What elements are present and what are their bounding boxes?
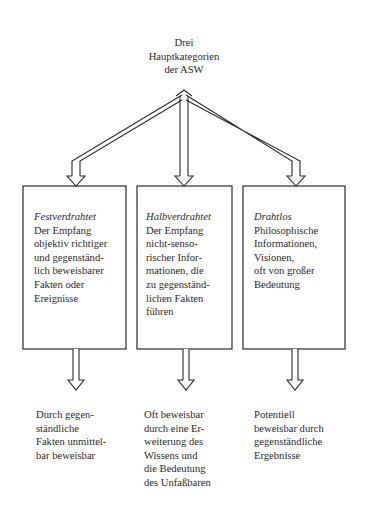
- box-line: lich beweisbarer: [34, 264, 132, 278]
- outcome-line: ständliche: [36, 422, 106, 436]
- outcome-line: weiterung des: [144, 435, 211, 449]
- outcome-line: gegenständliche: [254, 435, 324, 449]
- outcome-line: Fakten unmittel-: [36, 435, 106, 449]
- box-line: Informationen,: [254, 237, 352, 251]
- box-line: lichen Fakten: [146, 292, 244, 306]
- arrow-to-festverdrahtet: [72, 95, 182, 176]
- category-label: Festverdrahtet: [34, 210, 132, 224]
- arrow-to-drahtlos: [186, 95, 300, 176]
- box-line: Ereignisse: [34, 292, 132, 306]
- arrow-out-festverdrahtet: [68, 349, 84, 390]
- box-drahtlos-text: Drahtlos Philosophische Informationen, V…: [254, 210, 352, 292]
- title-line: der ASW: [120, 63, 248, 77]
- box-line: führen: [146, 305, 244, 319]
- box-festverdrahtet-text: Festverdrahtet Der Empfang objektiv rich…: [34, 210, 132, 305]
- box-line: Visionen,: [254, 251, 352, 265]
- box-halbverdrahtet-text: Halbverdrahtet Der Empfang nicht-senso- …: [146, 210, 244, 319]
- arrow-to-halbverdrahtet: [180, 96, 188, 176]
- title-line: Hauptkategorien: [120, 50, 248, 64]
- outcome-line: durch eine Er-: [144, 422, 211, 436]
- diagram-title: Drei Hauptkategorien der ASW: [120, 36, 248, 77]
- box-line: Fakten oder: [34, 278, 132, 292]
- box-line: Bedeutung: [254, 278, 352, 292]
- box-line: objektiv richtiger: [34, 237, 132, 251]
- category-label: Halbverdrahtet: [146, 210, 244, 224]
- outcome-line: die Bedeutung: [144, 462, 211, 476]
- outcome-line: Durch gegen-: [36, 408, 106, 422]
- title-line: Drei: [120, 36, 248, 50]
- category-label: Drahtlos: [254, 210, 352, 224]
- arrow-head-halbverdrahtet: [175, 176, 193, 186]
- outcome-drahtlos: Potentiell beweisbar durch gegenständlic…: [254, 408, 324, 462]
- arrow-out-drahtlos: [287, 349, 303, 390]
- box-line: Der Empfang: [146, 224, 244, 238]
- box-line: Philosophische: [254, 224, 352, 238]
- arrow-head-festverdrahtet: [67, 176, 85, 186]
- outcome-halbverdrahtet: Oft beweisbar durch eine Er- weiterung d…: [144, 408, 211, 490]
- box-line: und gegenständ-: [34, 251, 132, 265]
- outcome-line: Ergebnisse: [254, 449, 324, 463]
- outcome-line: des Unfaßbaren: [144, 476, 211, 490]
- box-line: zu gegenständ-: [146, 278, 244, 292]
- outcome-line: Oft beweisbar: [144, 408, 211, 422]
- outcome-line: bar beweisbar: [36, 449, 106, 463]
- outcome-line: Wissens und: [144, 449, 211, 463]
- box-line: Der Empfang: [34, 224, 132, 238]
- outcome-line: Potentiell: [254, 408, 324, 422]
- arrow-out-halbverdrahtet: [178, 349, 194, 390]
- arrow-head-drahtlos: [287, 176, 305, 186]
- box-line: nicht-senso-: [146, 237, 244, 251]
- box-line: rischer Infor-: [146, 251, 244, 265]
- outcome-line: beweisbar durch: [254, 422, 324, 436]
- arrow-apex: [176, 90, 192, 96]
- box-line: oft von großer: [254, 264, 352, 278]
- outcome-festverdrahtet: Durch gegen- ständliche Fakten unmittel-…: [36, 408, 106, 462]
- box-line: mationen, die: [146, 264, 244, 278]
